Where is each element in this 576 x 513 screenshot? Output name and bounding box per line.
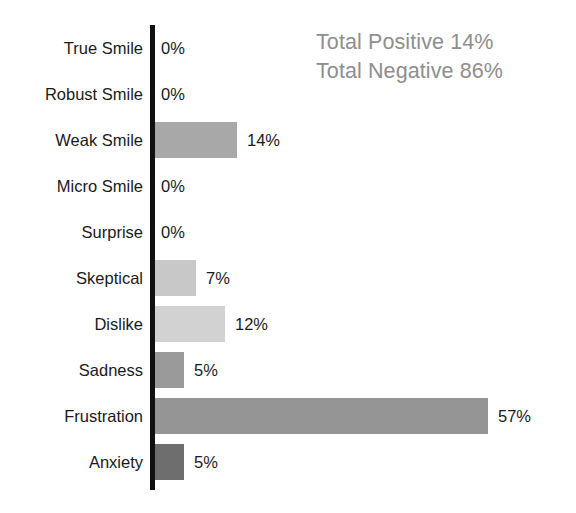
bar-value-label: 14%	[247, 117, 280, 163]
category-label: True Smile	[64, 25, 143, 71]
bar-value-label: 0%	[161, 25, 185, 71]
category-label: Micro Smile	[57, 163, 143, 209]
total-negative-text: Total Negative 86%	[316, 57, 566, 86]
category-label: Weak Smile	[55, 117, 143, 163]
bar	[155, 260, 196, 296]
bar	[155, 398, 488, 434]
bar-value-label: 0%	[161, 209, 185, 255]
bar	[155, 306, 225, 342]
category-label: Anxiety	[89, 439, 143, 485]
category-label: Sadness	[79, 347, 143, 393]
category-label: Dislike	[94, 301, 143, 347]
bar	[155, 352, 184, 388]
category-label: Surprise	[82, 209, 143, 255]
bar	[155, 444, 184, 480]
bar-value-label: 0%	[161, 71, 185, 117]
bar-row: Sadness5%	[0, 347, 576, 393]
bar-value-label: 7%	[206, 255, 230, 301]
bar-row: Weak Smile14%	[0, 117, 576, 163]
bar-value-label: 57%	[498, 393, 531, 439]
bar	[155, 122, 237, 158]
plot-area: True Smile0%Robust Smile0%Weak Smile14%M…	[0, 25, 576, 490]
bar-row: Anxiety5%	[0, 439, 576, 485]
bar-value-label: 5%	[194, 347, 218, 393]
bar-row: Skeptical7%	[0, 255, 576, 301]
bar-row: Surprise0%	[0, 209, 576, 255]
bar-value-label: 12%	[235, 301, 268, 347]
bar-value-label: 0%	[161, 163, 185, 209]
category-label: Skeptical	[76, 255, 143, 301]
total-positive-text: Total Positive 14%	[316, 28, 566, 57]
bar-row: Micro Smile0%	[0, 163, 576, 209]
bar-row: Dislike12%	[0, 301, 576, 347]
category-label: Frustration	[64, 393, 143, 439]
bar-row: Frustration57%	[0, 393, 576, 439]
category-label: Robust Smile	[45, 71, 143, 117]
bar-value-label: 5%	[194, 439, 218, 485]
category-axis-line	[150, 25, 155, 490]
bar-chart: True Smile0%Robust Smile0%Weak Smile14%M…	[0, 0, 576, 513]
totals-annotation: Total Positive 14% Total Negative 86%	[316, 28, 566, 86]
